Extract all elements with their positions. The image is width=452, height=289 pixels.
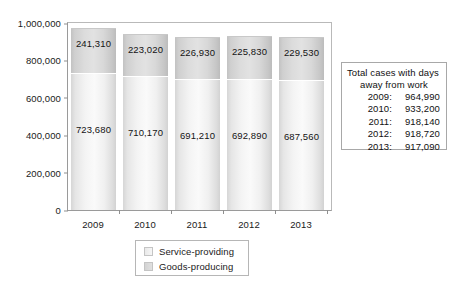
bar-2012-service-providing: 692,890 <box>227 79 272 210</box>
x-axis-label-2012: 2012 <box>238 210 260 230</box>
legend-label-service-providing: Service-providing <box>159 246 234 257</box>
bar-2013-service-providing: 687,560 <box>279 80 324 210</box>
callout-title-line1: Total cases with days <box>347 67 441 79</box>
x-axis-gridtick-3 <box>223 210 224 214</box>
bar-2010-goods-label: 223,020 <box>123 44 168 55</box>
callout-box: Total cases with days away from work 200… <box>341 62 447 150</box>
bar-2010: 223,020 710,170 <box>123 34 168 210</box>
legend-item-goods-producing: Goods-producing <box>144 260 248 273</box>
x-axis-label-2011: 2011 <box>187 210 208 230</box>
bar-2009-service-label: 723,680 <box>71 124 116 135</box>
x-axis-label-2009: 2009 <box>82 210 104 230</box>
chart-screenshot: 1,000,000 800,000 600,000 400,000 200,00… <box>0 0 452 289</box>
bar-2011-service-label: 691,210 <box>175 130 220 141</box>
bar-2013-goods-label: 229,530 <box>279 47 324 58</box>
bar-2009-goods-label: 241,310 <box>71 38 116 49</box>
bar-2011-service-providing: 691,210 <box>175 79 220 210</box>
bar-2012-goods-producing: 225,830 <box>227 36 272 79</box>
callout-value-2013: 917,090 <box>392 141 440 153</box>
x-axis-gridtick-2 <box>171 210 172 214</box>
bar-2009: 241,310 723,680 <box>71 28 116 210</box>
y-axis-tick-600000: 600,000 <box>26 92 68 103</box>
callout-row-2012: 2012: 918,720 <box>347 128 441 140</box>
y-axis-tick-800000: 800,000 <box>26 55 68 66</box>
callout-row-2010: 2010: 933,200 <box>347 103 441 115</box>
x-axis-label-2013: 2013 <box>290 210 312 230</box>
callout-year-2009: 2009: <box>358 91 392 103</box>
callout-year-2010: 2010: <box>358 103 392 115</box>
bar-2011-goods-label: 226,930 <box>175 47 220 58</box>
bar-2011-goods-producing: 226,930 <box>175 37 220 80</box>
bar-2013: 229,530 687,560 <box>279 37 324 210</box>
callout-row-2011: 2011: 918,140 <box>347 116 441 128</box>
x-axis-gridtick-1 <box>119 210 120 214</box>
y-axis-tick-0: 0 <box>56 205 68 216</box>
chart-legend: Service-providing Goods-producing <box>135 240 249 276</box>
bar-2013-goods-producing: 229,530 <box>279 37 324 80</box>
bar-2010-goods-producing: 223,020 <box>123 34 168 76</box>
legend-swatch-icon-goods-producing <box>144 262 153 271</box>
legend-item-service-providing: Service-providing <box>144 245 248 258</box>
y-axis-tick-200000: 200,000 <box>26 167 68 178</box>
bar-2012-service-label: 692,890 <box>227 130 272 141</box>
bar-2012-goods-label: 225,830 <box>227 46 272 57</box>
bar-2011: 226,930 691,210 <box>175 37 220 210</box>
legend-swatch-icon-service-providing <box>144 247 153 256</box>
callout-row-2009: 2009: 964,990 <box>347 91 441 103</box>
callout-row-2013: 2013: 917,090 <box>347 141 441 153</box>
bar-2013-service-label: 687,560 <box>279 131 324 142</box>
y-axis-tick-400000: 400,000 <box>26 130 68 141</box>
callout-value-2009: 964,990 <box>392 91 440 103</box>
bar-2009-goods-producing: 241,310 <box>71 28 116 74</box>
callout-year-2013: 2013: <box>358 141 392 153</box>
callout-value-2011: 918,140 <box>392 116 440 128</box>
x-axis-label-2010: 2010 <box>134 210 156 230</box>
plot-area: 1,000,000 800,000 600,000 400,000 200,00… <box>67 22 332 211</box>
callout-value-2012: 918,720 <box>392 128 440 140</box>
x-axis-gridtick-5 <box>327 210 328 214</box>
y-axis-tick-1000000: 1,000,000 <box>18 18 68 29</box>
callout-value-2010: 933,200 <box>392 103 440 115</box>
callout-year-2012: 2012: <box>358 128 392 140</box>
legend-label-goods-producing: Goods-producing <box>159 261 233 272</box>
bar-2010-service-label: 710,170 <box>123 127 168 138</box>
callout-title-line2: away from work <box>347 79 441 91</box>
x-axis-gridtick-4 <box>275 210 276 214</box>
bar-2012: 225,830 692,890 <box>227 36 272 210</box>
bar-2010-service-providing: 710,170 <box>123 76 168 210</box>
callout-year-2011: 2011: <box>358 116 392 128</box>
bar-2009-service-providing: 723,680 <box>71 73 116 210</box>
